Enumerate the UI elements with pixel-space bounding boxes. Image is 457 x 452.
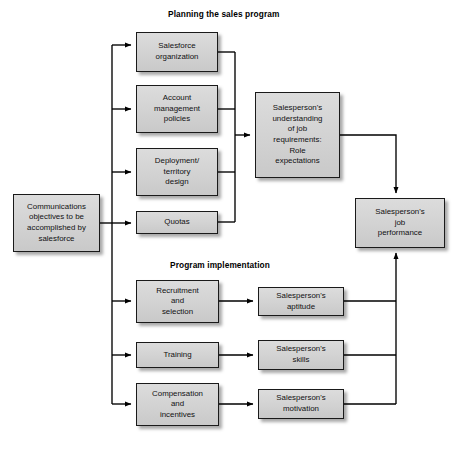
node-salesforce-organization[interactable]: Salesforce organization	[136, 32, 218, 72]
node-label: Training	[161, 350, 193, 361]
section-title-implementation: Program implementation	[170, 260, 270, 270]
node-label: Account management policies	[152, 93, 202, 125]
node-label: Salesperson's job performance	[373, 207, 426, 239]
node-label: Salesperson's skills	[274, 344, 327, 365]
node-label: Recruitment and selection	[154, 286, 201, 318]
node-label: Compensation and incentives	[150, 389, 205, 421]
node-account-management-policies[interactable]: Account management policies	[136, 85, 218, 133]
node-label: Salesperson's aptitude	[274, 291, 327, 312]
flow-diagram: Planning the sales program Program imple…	[0, 0, 457, 452]
node-label: Quotas	[162, 217, 191, 228]
node-label: Communications objectives to be accompli…	[25, 202, 88, 244]
node-job-performance[interactable]: Salesperson's job performance	[355, 198, 445, 248]
node-skills[interactable]: Salesperson's skills	[258, 340, 344, 370]
node-label: Deployment/ territory design	[153, 156, 201, 188]
node-label: Salesperson's motivation	[274, 393, 327, 414]
node-compensation-and-incentives[interactable]: Compensation and incentives	[136, 383, 219, 426]
node-quotas[interactable]: Quotas	[136, 211, 218, 234]
node-communications-objectives[interactable]: Communications objectives to be accompli…	[13, 194, 100, 252]
node-label: Salesforce organization	[154, 41, 201, 62]
edge-role-expectations-to-job-performance	[340, 135, 396, 193]
node-training[interactable]: Training	[136, 342, 219, 368]
section-title-planning: Planning the sales program	[168, 9, 279, 19]
node-aptitude[interactable]: Salesperson's aptitude	[258, 287, 344, 316]
node-deployment-territory-design[interactable]: Deployment/ territory design	[136, 148, 218, 196]
node-recruitment-and-selection[interactable]: Recruitment and selection	[136, 280, 219, 323]
node-role-expectations[interactable]: Salesperson's understanding of job requi…	[255, 92, 340, 178]
node-label: Salesperson's understanding of job requi…	[270, 103, 324, 167]
node-motivation[interactable]: Salesperson's motivation	[258, 389, 344, 419]
